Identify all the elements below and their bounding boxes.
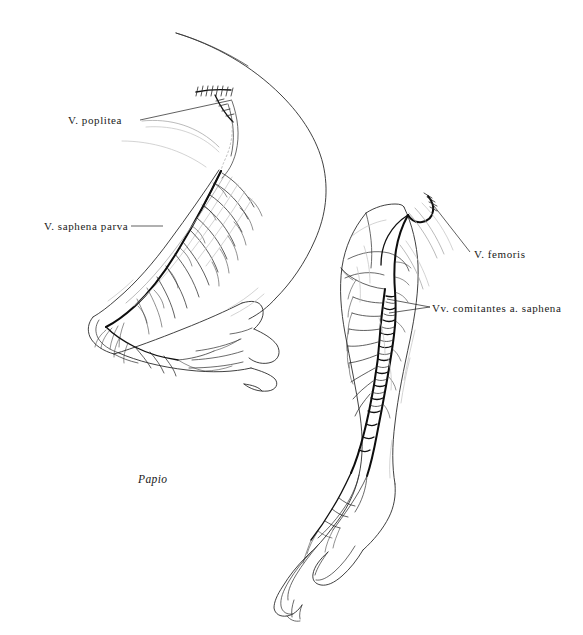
leader-lines — [131, 100, 470, 313]
right-foot-veins — [303, 473, 367, 563]
left-limb-shading — [108, 184, 264, 316]
leader-poplitea — [140, 100, 232, 120]
right-ankle — [306, 475, 395, 557]
label-vv-comitantes-a-saphena: Vv. comitantes a. saphena — [432, 303, 561, 314]
left-calf-tributaries — [95, 173, 262, 349]
label-v-poplitea: V. poplitea — [68, 115, 122, 126]
label-v-femoris: V. femoris — [474, 249, 526, 260]
leader-femoris — [434, 206, 470, 252]
specimen-caption-papio: Papio — [138, 473, 167, 485]
v-femoris-cut-end — [408, 193, 437, 222]
left-limb-drawing — [88, 33, 326, 391]
anatomical-plate: .out { fill:none; stroke:#2b2b2b; stroke… — [0, 0, 583, 635]
left-limb-outline — [176, 33, 326, 319]
right-limb-drawing — [274, 193, 453, 621]
right-foot-outline — [274, 545, 363, 621]
right-limb-shading — [352, 203, 453, 478]
vv-comitantes-network — [351, 289, 396, 476]
left-calf-outline — [88, 170, 232, 354]
popliteal-vein-cut-end — [196, 86, 234, 171]
v-femoris-trunk — [381, 215, 408, 291]
left-limb-fascial-lines — [122, 120, 219, 167]
right-limb-tributaries — [341, 262, 411, 418]
left-foot-veins — [106, 327, 240, 376]
label-v-saphena-parva: V. saphena parva — [44, 221, 128, 232]
left-foot-outline — [114, 301, 279, 391]
